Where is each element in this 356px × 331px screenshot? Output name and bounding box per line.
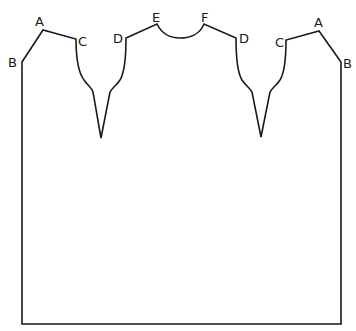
point-label-c-left: C	[78, 34, 87, 49]
point-label-a-left: A	[35, 14, 44, 29]
pattern-outline	[22, 24, 341, 324]
point-label-d-left: D	[113, 31, 123, 46]
point-label-e: E	[152, 10, 160, 25]
point-label-c-right: C	[275, 35, 284, 50]
point-label-b-left: B	[8, 55, 17, 70]
point-label-d-right: D	[239, 31, 249, 46]
point-label-a-right: A	[314, 15, 323, 30]
point-label-f: F	[201, 10, 208, 25]
pattern-diagram: A B C D E F D C A B	[0, 0, 356, 331]
point-label-b-right: B	[343, 56, 352, 71]
